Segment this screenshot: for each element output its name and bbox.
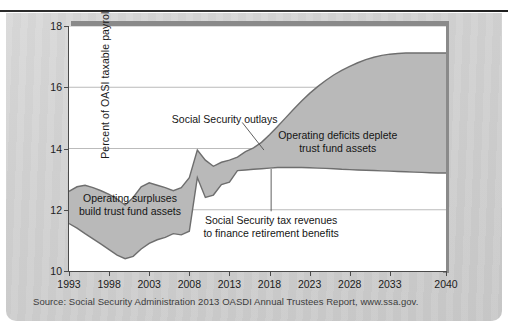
x-tick-label: 1998 [97, 278, 120, 290]
x-tick-mark [189, 271, 190, 276]
x-tick-mark [229, 271, 230, 276]
x-tick-label: 2013 [218, 278, 241, 290]
y-tick-label: 16 [50, 81, 62, 93]
annotation-text: Social Security outlays [172, 113, 278, 125]
x-tick-mark [390, 271, 391, 276]
y-tick-label: 14 [50, 143, 62, 155]
x-tick-label: 2008 [178, 278, 201, 290]
page-top-rule [0, 10, 508, 12]
y-tick-label: 12 [50, 204, 62, 216]
x-tick-label: 2033 [378, 278, 401, 290]
y-tick-mark [64, 26, 69, 27]
tax-revenues-label: Social Security tax revenuesto finance r… [203, 214, 338, 240]
annotation-text: Operating deficits deplete [278, 129, 397, 142]
annotation-text: trust fund assets [278, 142, 397, 155]
y-tick-label: 18 [50, 20, 62, 32]
surpluses-label: Operating surplusesbuild trust fund asse… [79, 192, 181, 218]
x-tick-label: 2040 [434, 278, 457, 290]
x-tick-label: 2028 [338, 278, 361, 290]
x-tick-mark [109, 271, 110, 276]
figure-container: Percent of OASI taxable payroll 10121416… [0, 0, 508, 336]
outlays-label: Social Security outlays [172, 113, 278, 126]
x-tick-mark [310, 271, 311, 276]
source-note: Source: Social Security Administration 2… [33, 296, 418, 307]
annotation-text: Operating surpluses [79, 192, 181, 205]
x-tick-label: 2018 [258, 278, 281, 290]
y-tick-mark [64, 149, 69, 150]
y-tick-mark [64, 210, 69, 211]
plot-area: Percent of OASI taxable payroll 10121416… [68, 26, 446, 272]
deficits-label: Operating deficits depletetrust fund ass… [278, 129, 397, 155]
annotation-text: to finance retirement benefits [203, 227, 338, 240]
annotation-text: build trust fund assets [79, 205, 181, 218]
x-tick-label: 2023 [298, 278, 321, 290]
x-tick-mark [446, 271, 447, 276]
x-tick-label: 2003 [138, 278, 161, 290]
x-tick-label: 1993 [57, 278, 80, 290]
x-tick-mark [270, 271, 271, 276]
x-tick-mark [350, 271, 351, 276]
y-tick-label: 10 [50, 265, 62, 277]
y-axis-title: Percent of OASI taxable payroll [99, 4, 111, 164]
x-tick-mark [149, 271, 150, 276]
annotation-text: Social Security tax revenues [203, 214, 338, 227]
x-tick-mark [69, 271, 70, 276]
outlays-leader-line [242, 122, 264, 150]
y-tick-mark [64, 87, 69, 88]
